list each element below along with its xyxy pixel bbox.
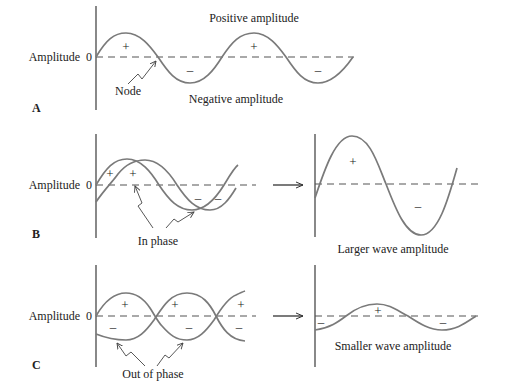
- node-pointer-arrow: [128, 61, 156, 84]
- larger-wave-amplitude-label: Larger wave amplitude: [337, 242, 448, 256]
- plus-sign: +: [250, 39, 257, 54]
- node-label: Node: [115, 84, 141, 98]
- plus-sign: +: [374, 303, 381, 318]
- smaller-wave-amplitude-label: Smaller wave amplitude: [335, 339, 452, 353]
- minus-sign: –: [314, 62, 322, 77]
- minus-sign: –: [414, 198, 422, 213]
- panel-c: Amplitude0 + + + – – – Out of phase C – …: [29, 265, 480, 381]
- panel-a: Amplitude0 Positive amplitude Negative a…: [29, 6, 354, 115]
- larger-resultant-wave: [315, 136, 457, 235]
- plus-sign: +: [349, 154, 356, 169]
- in-phase-pointer-arrow: [166, 212, 194, 228]
- out-of-phase-label: Out of phase: [122, 367, 183, 381]
- plus-sign: +: [121, 297, 128, 312]
- minus-sign: –: [235, 319, 243, 334]
- in-phase-label: In phase: [138, 234, 178, 248]
- smaller-resultant-wave: [315, 304, 476, 330]
- minus-sign: –: [439, 314, 447, 329]
- plus-sign: +: [106, 166, 113, 181]
- positive-amplitude-label: Positive amplitude: [209, 11, 299, 25]
- panel-letter-c: C: [32, 358, 41, 372]
- y-axis-label: Amplitude0: [29, 309, 92, 323]
- minus-sign: –: [317, 314, 325, 329]
- in-phase-pointer-arrow: [135, 186, 153, 228]
- panel-letter-b: B: [32, 227, 40, 241]
- plus-sign: +: [237, 297, 244, 312]
- panel-b: Amplitude0 + + – – In phase B + – Larger…: [29, 134, 480, 256]
- out-of-phase-pointer-arrow: [157, 343, 183, 366]
- minus-sign: –: [186, 62, 194, 77]
- plus-sign: +: [171, 297, 178, 312]
- plus-sign: +: [122, 39, 129, 54]
- y-axis-label: Amplitude0: [29, 50, 92, 64]
- minus-sign: –: [214, 190, 222, 205]
- negative-amplitude-label: Negative amplitude: [189, 92, 283, 106]
- minus-sign: –: [185, 319, 193, 334]
- minus-sign: –: [109, 319, 117, 334]
- panel-letter-a: A: [32, 101, 41, 115]
- wave-interference-diagram: Amplitude0 Positive amplitude Negative a…: [0, 0, 508, 391]
- plus-sign: +: [129, 166, 136, 181]
- out-of-phase-pointer-arrow: [117, 343, 145, 366]
- minus-sign: –: [194, 190, 202, 205]
- y-axis-label: Amplitude0: [29, 178, 92, 192]
